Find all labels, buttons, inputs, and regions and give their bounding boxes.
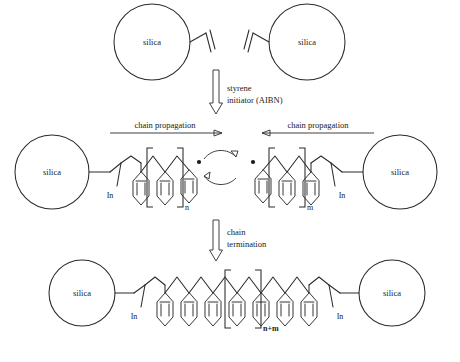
silica-particle-mid-right: silica [363, 135, 437, 209]
silica-label: silica [143, 37, 161, 47]
silica-label: silica [43, 167, 61, 177]
polymer-chain-bottom-left: In n+m [115, 270, 279, 333]
silica-particle-bottom-right: silica [359, 260, 425, 326]
initiator-fragment-label: In [107, 191, 114, 200]
stage-1-vinyl-silica: silica silica [114, 4, 345, 80]
silica-label: silica [383, 288, 401, 298]
arrow-termination-line-1: chain [227, 227, 246, 237]
arrow-initiation-line-2: initiator (AIBN) [227, 95, 283, 105]
electron-transfer-arrows [204, 150, 238, 184]
stage-2-propagating-radicals: chain propagation chain propagation sili… [15, 120, 437, 212]
reaction-scheme-figure: silica silica styrene initiator (AIBN) c… [0, 0, 460, 362]
propagation-label-right: chain propagation [287, 120, 349, 130]
arrow-initiation-line-1: styrene [227, 83, 252, 93]
polymer-chain-mid-left: In n [89, 148, 201, 212]
silica-particle-mid-left: silica [15, 135, 89, 209]
radical-dot-right [251, 160, 255, 164]
silica-label: silica [73, 288, 91, 298]
vinyl-group-top-left [190, 30, 215, 52]
subscript-n-plus-m: n+m [263, 324, 279, 333]
polymer-chain-mid-right: In m [251, 148, 363, 212]
propagation-arrow-right: chain propagation [262, 120, 374, 136]
radical-dot-left [197, 160, 201, 164]
arrow-termination: chain termination [210, 220, 267, 261]
silica-particle-top-left: silica [114, 4, 190, 80]
propagation-arrow-left: chain propagation [110, 120, 222, 136]
subscript-n: n [185, 203, 189, 212]
vinyl-group-top-right [244, 30, 269, 52]
propagation-label-left: chain propagation [134, 120, 196, 130]
silica-label: silica [391, 167, 409, 177]
arrow-initiation: styrene initiator (AIBN) [210, 70, 283, 114]
silica-particle-bottom-left: silica [49, 260, 115, 326]
subscript-m: m [307, 203, 314, 212]
stage-3-terminated-polymer: silica In n+m [49, 260, 425, 333]
polymer-chain-bottom-right: In [237, 277, 359, 326]
arrow-termination-line-2: termination [227, 239, 267, 249]
silica-label: silica [298, 37, 316, 47]
initiator-fragment-label: In [131, 312, 138, 321]
initiator-fragment-label: In [339, 191, 346, 200]
initiator-fragment-label: In [337, 312, 344, 321]
silica-particle-top-right: silica [269, 4, 345, 80]
